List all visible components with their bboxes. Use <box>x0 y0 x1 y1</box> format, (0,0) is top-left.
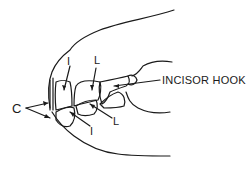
arrowhead-c-upper <box>43 101 48 106</box>
canine-tooth <box>50 78 53 110</box>
label-lower-incisor: I <box>90 126 93 137</box>
label-canine: C <box>12 102 22 115</box>
arrowhead-lower-l <box>90 104 95 109</box>
arrowhead-hook <box>114 84 119 88</box>
label-upper-incisor: I <box>67 56 70 67</box>
lower-central-incisor <box>56 107 75 127</box>
arrowhead-upper-l <box>90 85 94 90</box>
label-lower-lateral: L <box>113 116 119 127</box>
lower-corner-incisor <box>100 92 125 108</box>
lower-gum-line <box>126 92 170 113</box>
label-upper-lateral: L <box>94 55 100 66</box>
upper-central-incisor <box>55 81 72 111</box>
label-incisor-hook: INCISOR HOOK <box>162 75 246 86</box>
lower-lip-outline <box>52 112 170 156</box>
